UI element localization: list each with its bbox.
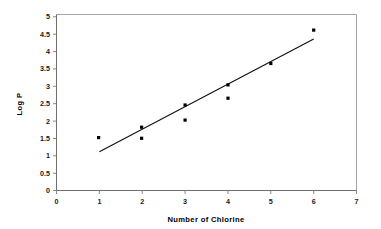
frame-top-right-border — [57, 15, 357, 191]
plot-frame — [57, 15, 357, 191]
data-point-marker — [184, 103, 187, 106]
data-points — [97, 29, 315, 140]
data-point-marker — [140, 137, 143, 140]
y-tick-label-4: 4 — [46, 47, 50, 56]
x-tick-label-4: 4 — [226, 197, 230, 206]
x-tick-label-5: 5 — [269, 197, 273, 206]
y-tick-label-0.5: 0.5 — [40, 169, 50, 178]
chart-container: 0 0.5 1 1.5 2 2.5 3 3.5 4 4.5 5 0 1 — [0, 0, 381, 229]
data-point-marker — [97, 136, 100, 139]
y-tick-label-2: 2 — [46, 117, 50, 126]
x-tick-label-6: 6 — [312, 197, 316, 206]
y-tick-label-3: 3 — [46, 82, 50, 91]
data-point-marker — [226, 83, 229, 86]
data-point-marker — [184, 119, 187, 122]
y-tick-label-1.5: 1.5 — [40, 134, 50, 143]
x-tick-label-2: 2 — [140, 197, 144, 206]
y-axis-title: Log P — [15, 93, 24, 116]
x-axis-title: Number of Chlorine — [167, 215, 244, 224]
data-point-marker — [269, 62, 272, 65]
y-axis-ticks — [53, 17, 57, 191]
data-point-marker — [226, 97, 229, 100]
y-tick-label-4.5: 4.5 — [40, 30, 50, 39]
x-axis-tick-labels: 0 1 2 3 4 5 6 7 — [55, 197, 359, 206]
x-tick-label-7: 7 — [355, 197, 359, 206]
trendline — [99, 39, 313, 152]
y-tick-label-0: 0 — [46, 186, 50, 195]
x-tick-label-0: 0 — [55, 197, 59, 206]
y-tick-label-5: 5 — [46, 12, 50, 21]
x-axis-ticks — [57, 191, 357, 195]
data-point-marker — [140, 126, 143, 129]
data-point-marker — [312, 29, 315, 32]
scatter-plot: 0 0.5 1 1.5 2 2.5 3 3.5 4 4.5 5 0 1 — [0, 0, 381, 229]
x-tick-label-3: 3 — [183, 197, 187, 206]
y-tick-label-2.5: 2.5 — [40, 99, 50, 108]
x-tick-label-1: 1 — [97, 197, 101, 206]
y-tick-label-1: 1 — [46, 151, 50, 160]
y-tick-label-3.5: 3.5 — [40, 64, 50, 73]
y-axis-tick-labels: 0 0.5 1 1.5 2 2.5 3 3.5 4 4.5 5 — [40, 12, 50, 195]
